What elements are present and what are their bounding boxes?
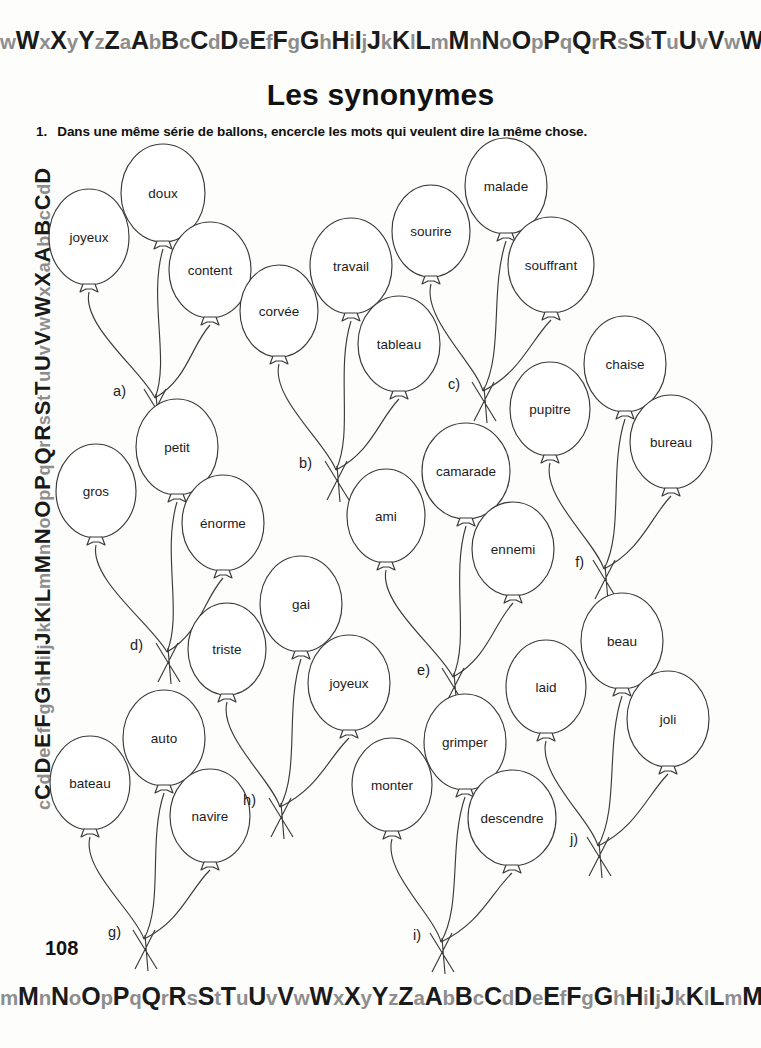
balloon-knot [80, 284, 98, 292]
group-label: j) [569, 831, 578, 847]
balloon[interactable]: content [155, 222, 251, 398]
balloon-word: joyeux [328, 676, 368, 691]
balloon-word: chaise [605, 357, 644, 372]
balloon-knot [659, 766, 677, 774]
balloon-knot [214, 570, 232, 578]
balloon-word: beau [607, 634, 637, 649]
balloon-knot [504, 595, 522, 603]
balloon-knot [390, 391, 408, 399]
balloon-knot [497, 233, 515, 241]
balloon-illustration-area: joyeuxdouxcontenta)corvéetravailtableaub… [0, 0, 761, 1048]
balloon-word: gai [292, 597, 310, 612]
balloon-knot [201, 317, 219, 325]
balloon-group: montergrimperdescendrei) [352, 694, 556, 974]
balloon-word: ennemi [491, 542, 535, 557]
balloon-word: ami [375, 509, 397, 524]
balloon-knot [218, 694, 236, 702]
balloon-word: laid [535, 680, 556, 695]
balloon-word: content [188, 263, 233, 278]
balloon-knot [270, 356, 288, 364]
balloon-tie [325, 461, 349, 502]
balloon[interactable]: bureau [604, 395, 712, 569]
balloon-knot [342, 313, 360, 321]
balloon-word: bateau [69, 776, 110, 791]
balloon-knot [542, 312, 560, 320]
balloon-knot [613, 688, 631, 696]
page-number: 108 [45, 937, 78, 960]
balloon-knot [201, 862, 219, 870]
balloon-word: corvée [259, 304, 300, 319]
balloon-knot [377, 562, 395, 570]
worksheet-page: wWxXyYzZaAbBcCdDeEfFgGhHiIjJkKlLmMnNoOpP… [0, 0, 761, 1048]
balloon-knot [616, 411, 634, 419]
balloon-word: doux [148, 186, 178, 201]
group-label: h) [243, 792, 256, 808]
balloon-knot [457, 518, 475, 526]
balloon-knot [292, 651, 310, 659]
group-label: b) [299, 455, 312, 471]
group-label: c) [448, 376, 460, 392]
group-label: e) [417, 662, 430, 678]
balloon-word: tableau [377, 337, 421, 352]
balloon-tie [430, 933, 454, 974]
balloon-knot [340, 730, 358, 738]
balloon-knot [503, 865, 521, 873]
balloon-word: petit [164, 440, 190, 455]
balloon-knot [383, 831, 401, 839]
balloon-word: travail [333, 259, 369, 274]
balloon-word: triste [212, 642, 241, 657]
balloon-knot [168, 494, 186, 502]
balloon-canvas: joyeuxdouxcontenta)corvéetravailtableaub… [0, 0, 761, 1048]
balloon-word: énorme [200, 516, 246, 531]
group-label: i) [413, 927, 421, 943]
balloon-word: navire [192, 809, 229, 824]
balloon-knot [662, 488, 680, 496]
balloon-word: gros [83, 484, 110, 499]
balloon-word: joyeux [68, 230, 108, 245]
balloon[interactable]: joli [598, 671, 709, 846]
balloon-tie [133, 930, 157, 971]
balloon-word: pupitre [529, 402, 570, 417]
balloon[interactable]: tableau [336, 296, 440, 470]
balloon-word: bureau [650, 435, 692, 450]
balloon-tie [156, 643, 180, 684]
balloon-knot [541, 455, 559, 463]
balloon[interactable]: navire [144, 769, 250, 939]
balloon-word: descendre [480, 811, 543, 826]
balloon-word: grimper [442, 735, 488, 750]
group-label: g) [108, 924, 121, 940]
group-label: d) [130, 637, 143, 653]
group-label: f) [575, 554, 584, 570]
balloon[interactable]: monter [352, 738, 441, 942]
balloon-word: camarade [436, 464, 496, 479]
balloon-word: souffrant [525, 258, 578, 273]
balloon-knot [154, 241, 172, 249]
balloon-tie [472, 382, 496, 423]
balloon-word: sourire [410, 224, 451, 239]
balloon-tie [587, 837, 611, 878]
balloon-knot [456, 789, 474, 797]
balloon-knot [422, 276, 440, 284]
balloon[interactable]: bateau [50, 736, 144, 939]
balloon-word: auto [151, 731, 177, 746]
group-label: a) [113, 383, 126, 399]
balloon-knot [81, 829, 99, 837]
balloon-knot [87, 537, 105, 545]
balloon-word: malade [484, 179, 528, 194]
balloon-group: joyeuxdouxcontenta) [49, 144, 251, 430]
balloon-word: joli [659, 712, 677, 727]
balloon-tie [269, 798, 293, 839]
balloon-knot [155, 785, 173, 793]
balloon-knot [537, 733, 555, 741]
balloon-word: monter [371, 778, 414, 793]
balloon-group: bateauautonavireg) [50, 690, 250, 971]
